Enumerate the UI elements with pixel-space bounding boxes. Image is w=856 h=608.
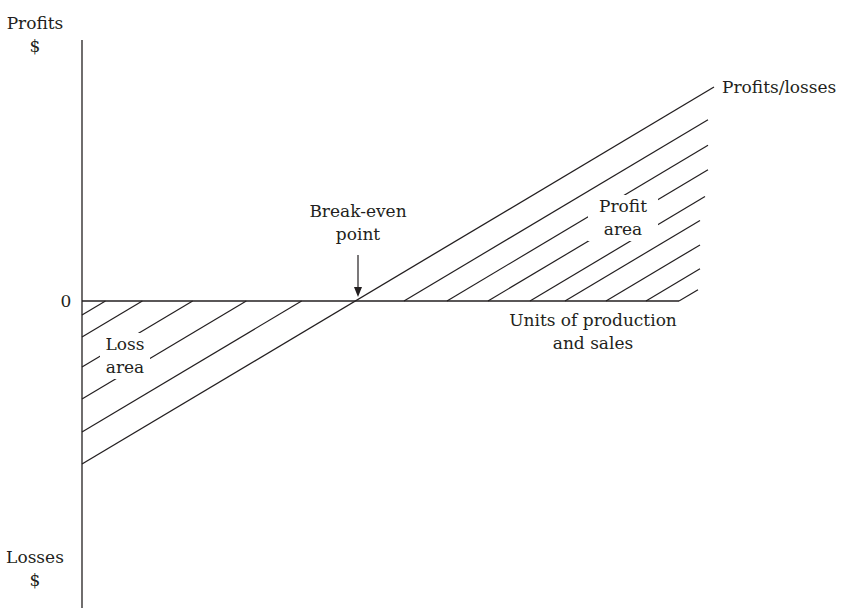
hatch-line bbox=[679, 290, 698, 301]
hatch-line bbox=[606, 245, 700, 301]
label-point: point bbox=[288, 223, 428, 246]
label-loss: Loss bbox=[100, 333, 150, 356]
label-losses: Losses bbox=[0, 546, 70, 569]
line-label: Profits/losses bbox=[722, 76, 836, 99]
hatch-line bbox=[646, 269, 700, 301]
arrowhead-icon bbox=[354, 287, 362, 297]
y-axis-label-losses: Losses $ bbox=[0, 546, 70, 592]
label-loss-area: area bbox=[100, 356, 150, 379]
label-losses-dollar: $ bbox=[0, 569, 70, 592]
profit-area-label: Profit area bbox=[588, 195, 658, 241]
profit-area-hatching bbox=[404, 120, 708, 301]
label-profits-losses: Profits/losses bbox=[722, 76, 836, 99]
label-profits-dollar: $ bbox=[0, 35, 70, 58]
label-zero: 0 bbox=[56, 290, 76, 313]
profits-losses-line bbox=[82, 87, 714, 464]
break-even-label: Break-even point bbox=[288, 200, 428, 246]
y-axis-label-profits: Profits $ bbox=[0, 12, 70, 58]
zero-tick-label: 0 bbox=[56, 290, 76, 313]
loss-area-label: Loss area bbox=[100, 333, 150, 379]
hatch-line bbox=[82, 301, 142, 337]
label-and-sales: and sales bbox=[482, 332, 704, 355]
x-axis-label: Units of production and sales bbox=[482, 309, 704, 355]
label-profits: Profits bbox=[0, 12, 70, 35]
label-units: Units of production bbox=[482, 309, 704, 332]
hatch-line bbox=[82, 301, 105, 315]
hatch-line bbox=[404, 120, 708, 301]
label-profit: Profit bbox=[588, 195, 658, 218]
label-profit-area: area bbox=[588, 218, 658, 241]
label-break-even: Break-even bbox=[288, 200, 428, 223]
